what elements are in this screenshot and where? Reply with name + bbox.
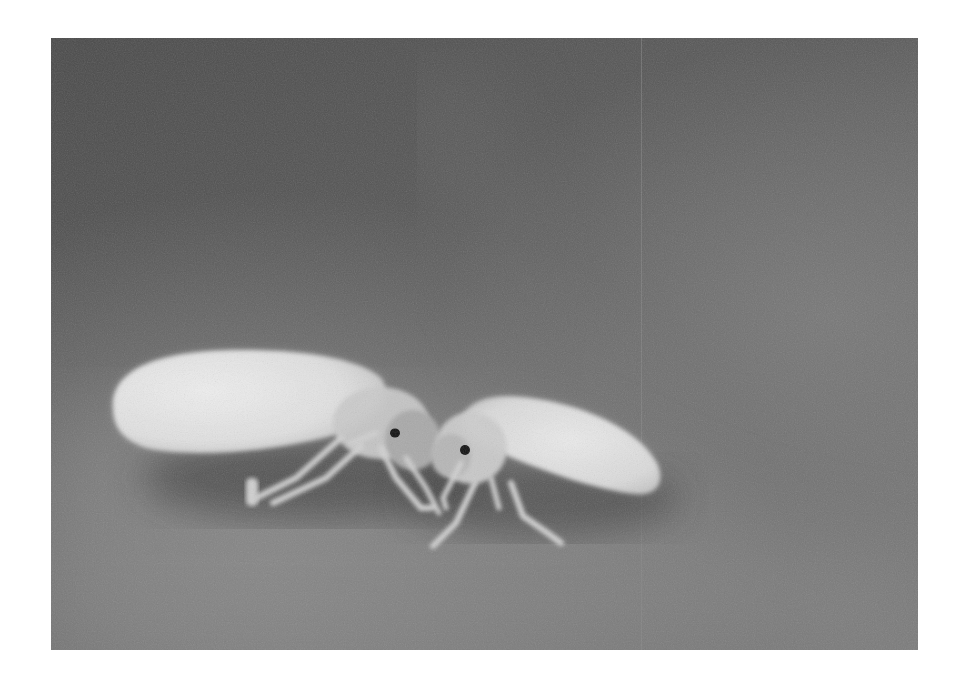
photo bbox=[51, 38, 918, 650]
grain-overlay bbox=[51, 38, 918, 650]
whitefly-photo-svg bbox=[51, 38, 918, 650]
